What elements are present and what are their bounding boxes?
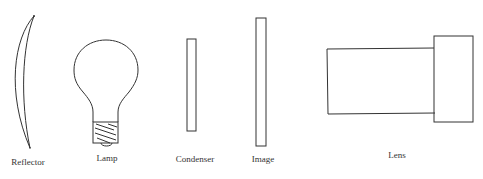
condenser-shape: [187, 39, 196, 131]
reflector-label: Reflector: [11, 157, 44, 167]
optical-diagram: [0, 0, 483, 179]
image-shape: [256, 18, 266, 146]
lens-label: Lens: [388, 150, 406, 160]
condenser-label: Condenser: [176, 154, 215, 164]
reflector-shape: [15, 15, 35, 149]
image-label: Image: [252, 154, 275, 164]
lamp-label: Lamp: [97, 153, 118, 163]
lens-shape: [327, 36, 473, 122]
lamp-shape: [74, 40, 138, 146]
